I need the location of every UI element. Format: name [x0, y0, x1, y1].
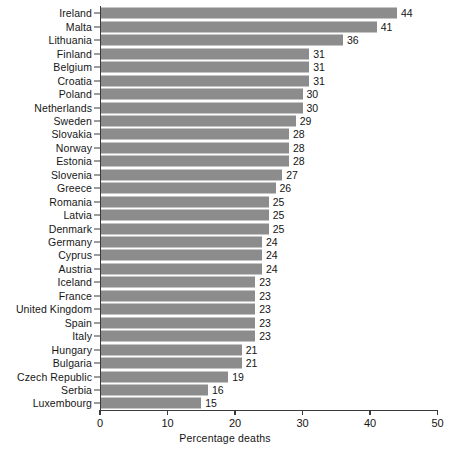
- bar-value-label: 44: [401, 8, 413, 19]
- x-axis-tick: [99, 410, 100, 415]
- bar-value-label: 26: [280, 183, 292, 194]
- bar: [100, 317, 255, 328]
- bar-value-label: 19: [232, 371, 244, 382]
- bar-value-label: 31: [313, 62, 325, 73]
- bar-value-label: 23: [259, 317, 271, 328]
- category-label: Latvia: [63, 210, 92, 221]
- category-label: Sweden: [53, 115, 92, 126]
- category-label: Cyprus: [58, 250, 92, 261]
- category-label: Spain: [65, 317, 92, 328]
- bar: [100, 371, 228, 382]
- category-label: Denmark: [49, 223, 92, 234]
- x-axis-line: [100, 410, 438, 411]
- bar: [100, 398, 201, 409]
- bar-value-label: 21: [246, 344, 258, 355]
- category-label: Malta: [66, 21, 92, 32]
- bar: [100, 129, 289, 140]
- bar: [100, 210, 269, 221]
- x-axis-tick: [234, 410, 235, 415]
- bar: [100, 169, 282, 180]
- bar: [100, 62, 309, 73]
- category-label: Serbia: [61, 384, 92, 395]
- bar: [100, 277, 255, 288]
- category-label: Bulgaria: [53, 358, 92, 369]
- bar-value-label: 41: [381, 21, 393, 32]
- bar: [100, 250, 262, 261]
- x-axis-title: Percentage deaths: [0, 432, 450, 444]
- category-label: Belgium: [53, 62, 92, 73]
- category-label: Norway: [56, 142, 92, 153]
- bar-value-label: 31: [313, 75, 325, 86]
- bar: [100, 304, 255, 315]
- category-label: Austria: [59, 263, 92, 274]
- category-label: Germany: [48, 237, 92, 248]
- category-label: Lithuania: [48, 35, 92, 46]
- category-label: Italy: [72, 331, 92, 342]
- category-label: Croatia: [57, 75, 92, 86]
- category-label: United Kingdom: [16, 304, 92, 315]
- bar-value-label: 25: [273, 210, 285, 221]
- category-label: Luxembourg: [33, 398, 92, 409]
- bar: [100, 358, 242, 369]
- bar-value-label: 21: [246, 358, 258, 369]
- x-axis-tick-label: 40: [364, 417, 376, 429]
- x-axis-tick: [369, 410, 370, 415]
- bar: [100, 290, 255, 301]
- bar: [100, 156, 289, 167]
- category-label: Czech Republic: [17, 371, 92, 382]
- bar-value-label: 24: [266, 237, 278, 248]
- category-label: Iceland: [57, 277, 92, 288]
- bar: [100, 384, 208, 395]
- bar-value-label: 28: [293, 142, 305, 153]
- bar-value-label: 25: [273, 196, 285, 207]
- bar-value-label: 15: [205, 398, 217, 409]
- bar-value-label: 29: [300, 115, 312, 126]
- bar-chart: Ireland44Malta41Lithuania36Finland31Belg…: [0, 0, 450, 454]
- bar-value-label: 23: [259, 290, 271, 301]
- x-axis-tick-label: 0: [97, 417, 103, 429]
- bar: [100, 48, 309, 59]
- x-axis-tick-label: 50: [431, 417, 443, 429]
- bar: [100, 35, 343, 46]
- bar: [100, 21, 377, 32]
- bar-value-label: 25: [273, 223, 285, 234]
- bar: [100, 263, 262, 274]
- bar-value-label: 36: [347, 35, 359, 46]
- bar-value-label: 16: [212, 384, 224, 395]
- category-label: Hungary: [52, 344, 92, 355]
- category-label: Slovakia: [52, 129, 93, 140]
- bar-value-label: 24: [266, 263, 278, 274]
- bar: [100, 331, 255, 342]
- bar-value-label: 24: [266, 250, 278, 261]
- x-axis-tick-label: 20: [229, 417, 241, 429]
- x-axis-tick: [302, 410, 303, 415]
- category-label: Poland: [59, 89, 92, 100]
- category-label: Romania: [49, 196, 92, 207]
- x-axis-tick-label: 30: [296, 417, 308, 429]
- category-label: Finland: [57, 48, 92, 59]
- bar-value-label: 30: [307, 89, 319, 100]
- bar-value-label: 27: [286, 169, 298, 180]
- bar: [100, 75, 309, 86]
- bar: [100, 102, 303, 113]
- x-axis-tick: [437, 410, 438, 415]
- category-label: Estonia: [56, 156, 92, 167]
- bar: [100, 89, 303, 100]
- x-axis-tick: [167, 410, 168, 415]
- bar-value-label: 30: [307, 102, 319, 113]
- bar: [100, 223, 269, 234]
- bar-value-label: 23: [259, 304, 271, 315]
- category-label: Netherlands: [34, 102, 92, 113]
- bar-value-label: 28: [293, 156, 305, 167]
- bar: [100, 183, 276, 194]
- category-label: Ireland: [59, 8, 92, 19]
- bar: [100, 344, 242, 355]
- bar-value-label: 23: [259, 331, 271, 342]
- bar: [100, 8, 397, 19]
- bar-value-label: 31: [313, 48, 325, 59]
- bar: [100, 196, 269, 207]
- bar-value-label: 23: [259, 277, 271, 288]
- bar: [100, 237, 262, 248]
- bar: [100, 115, 296, 126]
- category-label: France: [59, 290, 92, 301]
